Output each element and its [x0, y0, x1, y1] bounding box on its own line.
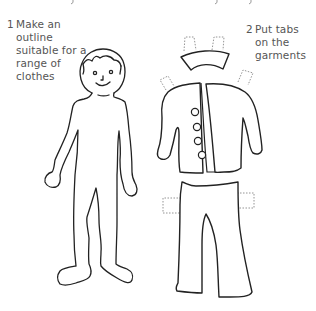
doll-mouth: [96, 82, 110, 86]
doll-body: [45, 93, 137, 285]
collar-tabs: [184, 37, 224, 51]
collar: [181, 37, 229, 70]
button-icon: [193, 123, 200, 130]
button-icon: [194, 137, 201, 144]
trousers-outline: [176, 182, 252, 297]
trousers: [163, 182, 254, 297]
button-icon: [191, 108, 198, 115]
doll-left-eye: [93, 71, 96, 74]
doll-right-eye: [109, 70, 112, 73]
jacket: [157, 70, 262, 173]
collar-outline: [181, 51, 229, 70]
doll-head: [80, 49, 125, 93]
cut-off-caption: [71, 0, 251, 4]
button-icon: [198, 151, 205, 158]
doll-outline: [45, 49, 137, 285]
paper-doll-diagram: 1Make an outline suitable for a range of…: [0, 0, 316, 311]
doll-hair: [83, 56, 121, 66]
jacket-right-panel: [206, 84, 262, 173]
doll-nose: [101, 76, 103, 80]
illustration: [0, 0, 316, 311]
